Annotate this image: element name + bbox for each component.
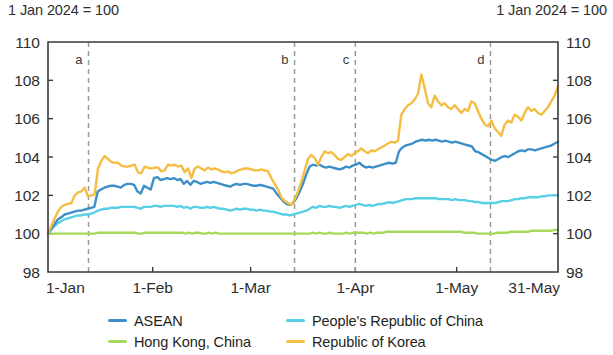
x-tick-label: 1-Apr [336, 279, 374, 296]
y-axis-right: 98100102104106108110 [553, 34, 592, 281]
y-tick-label-left: 100 [14, 225, 40, 242]
plot-area: 98100102104106108110 9810010210410610811… [0, 0, 613, 310]
y-tick-label-left: 104 [14, 149, 40, 166]
annotation-lines: abcd [75, 42, 490, 272]
x-tick-label: 1-Feb [132, 279, 173, 296]
y-tick-label-left: 108 [14, 72, 40, 89]
y-tick-label-right: 106 [566, 110, 592, 127]
legend-label: People's Republic of China [312, 313, 483, 329]
y-axis-left: 98100102104106108110 [14, 34, 53, 281]
y-tick-label-right: 108 [566, 72, 592, 89]
annotation-label-c: c [343, 52, 350, 67]
legend-swatch-icon [108, 319, 127, 323]
y-tick-label-right: 110 [566, 34, 591, 51]
series-line [48, 195, 558, 233]
series-line [48, 140, 558, 234]
y-tick-label-left: 98 [23, 264, 40, 281]
series-line [48, 230, 558, 234]
y-tick-label-left: 106 [14, 110, 40, 127]
y-tick-label-right: 98 [566, 264, 583, 281]
exchange-rate-index-chart: 1 Jan 2024 = 100 1 Jan 2024 = 100 981001… [0, 0, 613, 355]
annotation-label-b: b [281, 52, 288, 67]
legend-label: ASEAN [134, 313, 183, 329]
legend-swatch-icon [286, 319, 305, 323]
index-note-left: 1 Jan 2024 = 100 [8, 2, 119, 18]
legend-item[interactable]: People's Republic of China [286, 313, 578, 329]
y-tick-label-right: 102 [566, 187, 592, 204]
y-tick-label-right: 100 [566, 225, 592, 242]
annotation-label-d: d [477, 52, 484, 67]
x-tick-label: 1-Mar [230, 279, 270, 296]
x-tick-label: 31-May [508, 279, 560, 296]
annotation-label-a: a [75, 52, 83, 67]
legend-label: Republic of Korea [312, 334, 426, 350]
index-note-right: 1 Jan 2024 = 100 [496, 2, 607, 18]
legend-swatch-icon [286, 340, 305, 344]
legend-item[interactable]: Hong Kong, China [108, 334, 286, 350]
y-tick-label-right: 104 [566, 149, 592, 166]
x-tick-label: 1-May [435, 279, 478, 296]
legend-swatch-icon [108, 340, 127, 344]
legend-label: Hong Kong, China [134, 334, 251, 350]
y-tick-label-left: 102 [14, 187, 40, 204]
x-tick-label: 1-Jan [46, 279, 85, 296]
plot-frame [48, 42, 558, 272]
chart-legend: ASEANPeople's Republic of ChinaHong Kong… [108, 310, 578, 352]
series-lines [48, 75, 558, 234]
legend-item[interactable]: ASEAN [108, 313, 286, 329]
legend-item[interactable]: Republic of Korea [286, 334, 578, 350]
y-tick-label-left: 110 [15, 34, 40, 51]
